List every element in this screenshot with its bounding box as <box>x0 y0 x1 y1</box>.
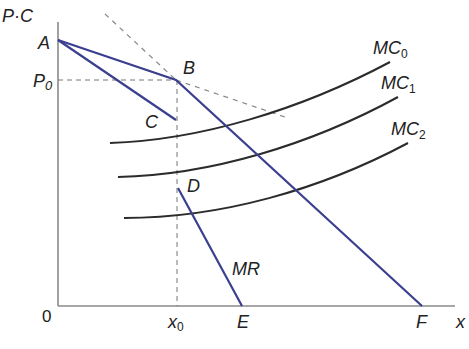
point-d-label: D <box>187 176 200 196</box>
point-e-label: E <box>237 312 250 332</box>
mc2-label: MC2 <box>391 119 426 142</box>
demand-extension-upper-dashed <box>105 14 176 80</box>
point-f-label: F <box>416 312 428 332</box>
demand-extension-lower-dashed <box>176 80 285 117</box>
x-axis-label: x <box>455 312 466 332</box>
p0-tick-label: P0 <box>33 71 53 93</box>
kinked-demand-diagram: P·C x 0 A B C D E F P0 x0 MC0 MC1 MC2 MR <box>0 0 469 349</box>
point-b-label: B <box>183 58 195 78</box>
mr-lower-segment-DE <box>178 188 242 306</box>
point-a-label: A <box>37 33 50 53</box>
point-c-label: C <box>145 112 159 132</box>
mr-label: MR <box>232 259 260 279</box>
mc0-label: MC0 <box>373 38 408 61</box>
y-axis-label: P·C <box>2 6 34 26</box>
origin-label: 0 <box>42 307 51 326</box>
mc2-curve <box>124 143 408 218</box>
x0-tick-label: x0 <box>167 312 184 334</box>
mc1-label: MC1 <box>381 73 416 96</box>
